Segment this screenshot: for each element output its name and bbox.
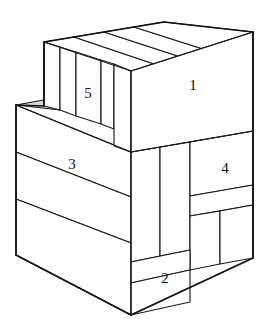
part-label-1: 1 [189,77,197,93]
lower-block-right-face-group [131,131,253,315]
part-label-5: 5 [84,85,92,101]
lower-right-face-col-e [220,205,253,264]
block-diagram-figure: 1 2 3 4 5 [0,0,267,330]
lower-right-face-col-b [160,142,190,256]
part-label-3: 3 [68,156,76,172]
lower-right-face-col-d [190,211,220,270]
upper-left-slab-d [101,60,114,129]
isometric-block-drawing: 1 2 3 4 5 [0,0,267,330]
upper-left-slab-b [60,47,76,116]
part-label-4: 4 [221,160,229,176]
upper-left-slab-e [114,64,131,152]
lower-right-face-col-a [131,147,160,262]
upper-left-slab-a [44,42,60,110]
part-label-2: 2 [161,270,169,286]
